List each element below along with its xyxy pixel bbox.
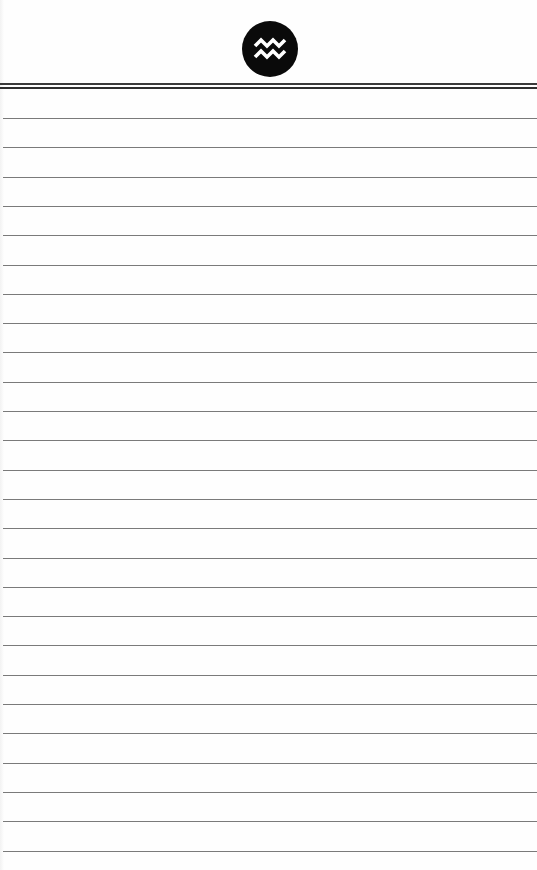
- ruled-line: [3, 704, 537, 705]
- header-rule-bottom: [0, 87, 537, 89]
- ruled-line: [3, 352, 537, 353]
- ruled-line: [3, 323, 537, 324]
- ruled-line: [3, 851, 537, 852]
- ruled-line: [3, 763, 537, 764]
- ruled-line: [3, 294, 537, 295]
- ruled-line: [3, 206, 537, 207]
- ruled-line: [3, 528, 537, 529]
- ruled-line: [3, 558, 537, 559]
- ruled-line: [3, 499, 537, 500]
- ruled-line: [3, 411, 537, 412]
- ruled-line: [3, 382, 537, 383]
- ruled-line: [3, 733, 537, 734]
- ruled-line: [3, 177, 537, 178]
- ruled-line: [3, 645, 537, 646]
- ruled-line: [3, 118, 537, 119]
- header-rule-top: [0, 83, 537, 85]
- ruled-line: [3, 587, 537, 588]
- ruled-line: [3, 675, 537, 676]
- ruled-line: [3, 616, 537, 617]
- page-edge: [0, 0, 4, 870]
- ruled-line: [3, 235, 537, 236]
- ruled-line: [3, 821, 537, 822]
- ruled-line: [3, 792, 537, 793]
- ruled-line: [3, 470, 537, 471]
- ruled-line: [3, 440, 537, 441]
- aquarius-icon: [253, 36, 287, 62]
- ruled-line: [3, 265, 537, 266]
- ruled-line: [3, 147, 537, 148]
- aquarius-emblem: [242, 21, 298, 77]
- notepad-page: [0, 0, 537, 870]
